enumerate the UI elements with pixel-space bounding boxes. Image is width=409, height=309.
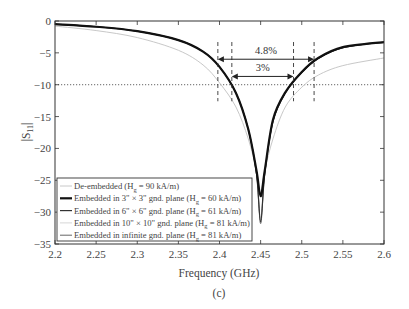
figure-caption: (c) [213, 287, 226, 300]
x-tick-label: 2.6 [377, 248, 391, 260]
arrowhead-right-icon [288, 73, 294, 79]
annotation-3-percent: 3% [256, 62, 270, 73]
y-axis-label: |S11| [20, 123, 35, 142]
x-tick-label: 2.55 [333, 248, 353, 260]
y-tick-label: −10 [34, 79, 52, 91]
legend-item-label: Embedded in 10" × 10" gnd. plane (Hg = 8… [74, 218, 250, 230]
y-tick-label: −25 [34, 174, 52, 186]
s11-chart: 2.22.252.32.352.42.452.52.552.60−5−10−15… [0, 0, 409, 309]
x-tick-label: 2.3 [130, 248, 144, 260]
legend-item-label: Embedded in 6" × 6" gnd. plane (Hg = 61 … [74, 206, 241, 218]
x-tick-label: 2.35 [169, 248, 189, 260]
legend-item-label: Embedded in infinite gnd. plane (Hg = 81… [74, 230, 241, 242]
x-axis-label: Frequency (GHz) [179, 267, 260, 280]
svg-text:|S11|: |S11| [20, 123, 35, 142]
x-tick-label: 2.45 [251, 248, 271, 260]
x-tick-label: 2.25 [87, 248, 107, 260]
arrowhead-left-icon [218, 56, 224, 62]
legend-item-label: De-embedded (Hg = 90 kA/m) [74, 181, 179, 193]
y-tick-label: 0 [46, 15, 52, 27]
legend: De-embedded (Hg = 90 kA/m)Embedded in 3"… [57, 178, 252, 242]
y-tick-label: −35 [34, 238, 52, 250]
arrowhead-left-icon [232, 73, 238, 79]
y-tick-label: −15 [34, 111, 52, 123]
x-tick-label: 2.5 [295, 248, 309, 260]
legend-item-label: Embedded in 3" × 3" gnd. plane (Hg = 60 … [74, 193, 241, 205]
y-tick-label: −20 [34, 142, 52, 154]
y-tick-label: −5 [39, 47, 51, 59]
series-line-1 [55, 26, 384, 193]
annotation-4-8-percent: 4.8% [255, 45, 277, 56]
x-tick-label: 2.4 [213, 248, 227, 260]
series-line-2 [55, 24, 384, 196]
y-tick-label: −30 [34, 206, 52, 218]
